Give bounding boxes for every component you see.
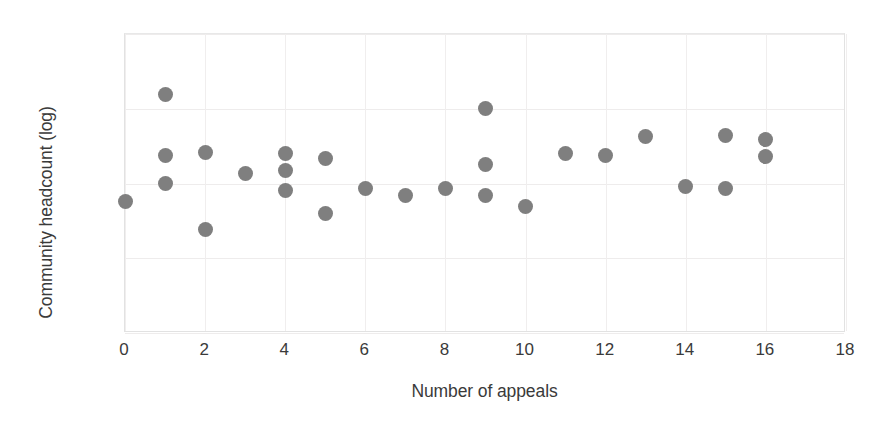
data-point [278,146,293,161]
data-point [398,188,413,203]
data-point [358,181,373,196]
data-point [518,199,533,214]
y-axis-title: Community headcount (log) [18,0,74,425]
gridline-vertical-18 [846,34,847,331]
data-point [198,145,213,160]
data-point [118,194,133,209]
x-tick-label: 8 [440,340,449,360]
x-tick-label: 2 [199,340,208,360]
data-point [478,101,493,116]
x-tick-label: 12 [595,340,614,360]
data-point [478,188,493,203]
gridline-vertical-12 [606,34,607,331]
data-point [278,183,293,198]
data-point [198,222,213,237]
gridline-vertical-0 [125,34,126,331]
scatter-chart: Community headcount (log) Number of appe… [0,0,889,425]
gridline-horizontal-100 [125,184,844,185]
data-point [758,149,773,164]
data-point [758,132,773,147]
x-tick-label: 6 [360,340,369,360]
data-point [718,128,733,143]
x-axis-title: Number of appeals [124,381,845,402]
x-tick-label: 16 [755,340,774,360]
data-point [318,206,333,221]
x-tick-label: 4 [279,340,288,360]
gridline-horizontal-1 [125,333,844,334]
x-tick-label: 14 [675,340,694,360]
x-tick-label: 10 [515,340,534,360]
data-point [158,148,173,163]
gridline-horizontal-10 [125,258,844,259]
data-point [678,179,693,194]
gridline-vertical-10 [526,34,527,331]
data-point [598,148,613,163]
data-point [478,157,493,172]
data-point [238,166,253,181]
data-point [438,181,453,196]
data-point [158,87,173,102]
data-point [318,151,333,166]
gridline-vertical-2 [205,34,206,331]
x-tick-label: 0 [119,340,128,360]
data-point [158,176,173,191]
x-tick-label: 18 [836,340,855,360]
data-point [638,129,653,144]
gridline-horizontal-10000 [125,34,844,35]
plot-area [124,33,845,332]
data-point [718,181,733,196]
data-point [558,146,573,161]
gridline-vertical-16 [766,34,767,331]
data-point [278,163,293,178]
